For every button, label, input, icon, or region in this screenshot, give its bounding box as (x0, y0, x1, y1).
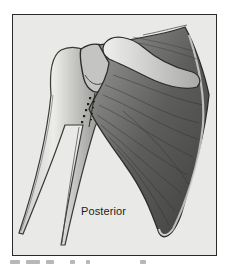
caption-fragment (10, 260, 20, 264)
view-label: Posterior (81, 205, 126, 217)
shoulder-anatomy-illustration (13, 15, 216, 255)
caption-fragment (86, 260, 90, 264)
figure-frame: Posterior (12, 14, 217, 256)
figure-caption-truncated (10, 259, 216, 266)
caption-fragment (46, 260, 54, 264)
caption-fragment (26, 260, 40, 264)
caption-fragment (70, 260, 75, 264)
caption-fragment (140, 260, 146, 264)
